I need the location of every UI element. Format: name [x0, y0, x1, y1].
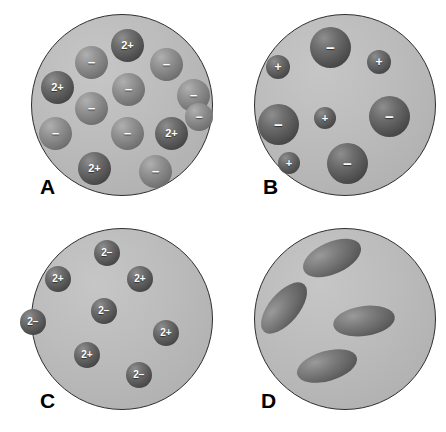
particle: − [112, 73, 145, 106]
particle-charge-label: − [195, 111, 202, 123]
panel-label-d: D [261, 390, 276, 411]
particle: − [39, 117, 72, 150]
particle: 2+ [111, 29, 144, 62]
particle-charge-label: 2+ [160, 328, 171, 338]
panel-label-b: B [263, 176, 278, 197]
particle-charge-label: − [274, 117, 283, 132]
particle-charge-label: 2+ [51, 82, 64, 93]
particle-charge-label: − [52, 127, 60, 140]
particle: 2+ [78, 152, 111, 185]
particle: − [258, 104, 299, 145]
particle: − [75, 92, 108, 125]
particle: + [314, 107, 336, 129]
panel-a: 2+−−2+−−−−−2+2+−−A [0, 0, 223, 216]
particle-charge-label: 2− [133, 370, 144, 380]
particle: − [150, 48, 183, 81]
particle-charge-label: − [88, 56, 96, 69]
particle: 2+ [45, 266, 71, 292]
particle-charge-label: − [124, 127, 132, 140]
particle: − [75, 46, 108, 79]
particle-charge-label: − [326, 40, 335, 55]
particle-charge-label: + [286, 157, 292, 168]
particle-charge-label: + [322, 112, 328, 123]
particle-charge-label: 2+ [165, 128, 178, 139]
particle-charge-label: 2+ [121, 40, 134, 51]
panel-label-a: A [40, 176, 55, 197]
particle-charge-label: 2+ [52, 274, 63, 284]
particle: 2+ [155, 117, 188, 150]
particle-charge-label: − [163, 58, 171, 71]
particle: 2− [91, 298, 117, 324]
particle: − [369, 96, 410, 137]
particle-charge-label: + [375, 56, 382, 68]
particle: 2− [126, 362, 152, 388]
panel-b: −++−+−+−B [223, 0, 446, 216]
particle: − [327, 143, 368, 184]
panel-c-container-circle [31, 228, 213, 410]
particle-charge-label: − [385, 109, 394, 124]
particle-charge-label: − [152, 165, 160, 178]
particle-charge-label: 2+ [134, 274, 145, 284]
particle-charge-label: 2− [27, 317, 38, 327]
particle: 2− [94, 240, 120, 266]
particle-charge-label: 2+ [88, 163, 101, 174]
particle: + [266, 55, 290, 79]
particle: − [310, 27, 351, 68]
panel-c: 2−2+2+2−2−2+2+2−C [0, 216, 223, 432]
particle: 2+ [127, 266, 153, 292]
particle: − [185, 103, 213, 131]
particle: 2+ [153, 320, 179, 346]
particle-charge-label: − [190, 89, 198, 102]
particle: + [278, 152, 300, 174]
particle: 2+ [74, 342, 100, 368]
particle-charge-label: − [125, 83, 133, 96]
particle: 2− [20, 309, 46, 335]
particle-charge-label: 2− [101, 248, 112, 258]
particle: + [367, 50, 391, 74]
particle-charge-label: + [274, 61, 281, 73]
particle: − [139, 155, 172, 188]
particle-charge-label: − [88, 102, 96, 115]
particle-charge-label: − [343, 156, 352, 171]
particle-charge-label: 2− [98, 306, 109, 316]
particle: − [111, 117, 144, 150]
particle-diagram-figure: 2+−−2+−−−−−2+2+−−A−++−+−+−B2−2+2+2−2−2+2… [0, 0, 446, 432]
panel-d: D [223, 216, 446, 432]
particle: 2+ [41, 71, 74, 104]
particle-charge-label: 2+ [81, 350, 92, 360]
panel-label-c: C [40, 390, 55, 411]
